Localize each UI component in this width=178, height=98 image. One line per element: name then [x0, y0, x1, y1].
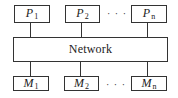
- connector-p2-network: [81, 23, 82, 38]
- processor-ellipsis: · · ·: [107, 9, 127, 19]
- connector-network-mn: [147, 62, 148, 76]
- connector-pn-network: [147, 23, 148, 38]
- processor-box-p1: P1: [14, 5, 50, 23]
- network-label: Network: [69, 42, 112, 57]
- processor-box-pn: Pn: [131, 5, 167, 23]
- memory-box-m2: M2: [64, 76, 99, 91]
- memory-label-m1: M1: [24, 77, 39, 91]
- processor-box-p2: P2: [65, 5, 100, 23]
- processor-label-pn: Pn: [143, 7, 155, 21]
- network-box: Network: [13, 37, 168, 62]
- connector-p1-network: [30, 23, 31, 38]
- memory-box-mn: Mn: [131, 76, 167, 91]
- memory-box-m1: M1: [13, 76, 49, 91]
- processor-label-p2: P2: [76, 7, 88, 21]
- processor-label-p1: P1: [26, 7, 38, 21]
- memory-ellipsis: · · ·: [106, 80, 126, 90]
- connector-network-m1: [30, 62, 31, 76]
- memory-label-m2: M2: [74, 77, 89, 91]
- memory-label-mn: Mn: [142, 77, 157, 91]
- connector-network-m2: [80, 62, 81, 76]
